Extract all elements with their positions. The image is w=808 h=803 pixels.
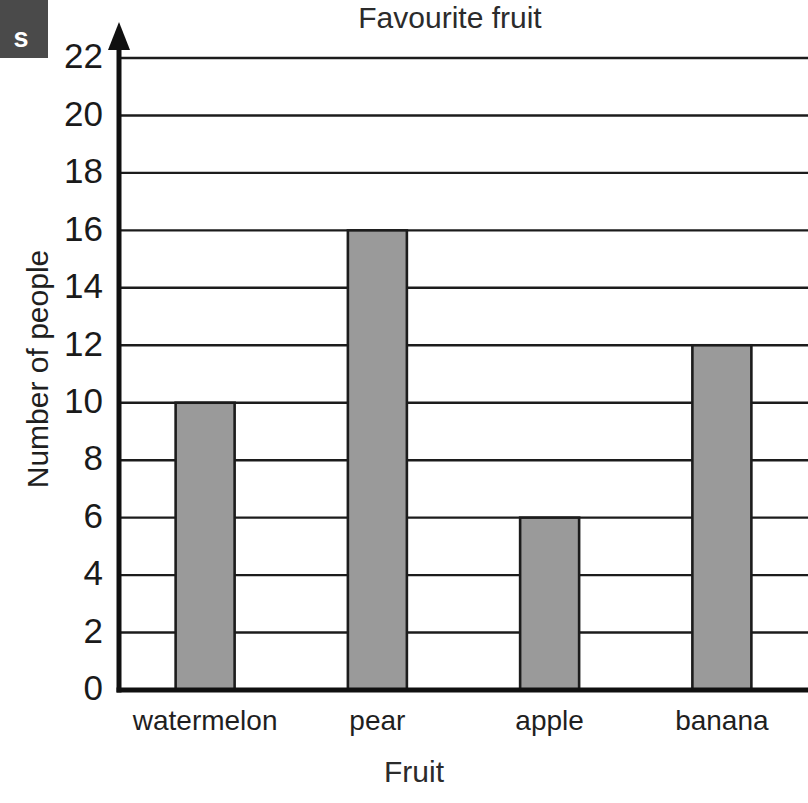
- bar-pear: [348, 230, 407, 690]
- y-tick-label: 6: [84, 496, 103, 535]
- y-tick-label: 10: [64, 381, 103, 420]
- bar-watermelon: [176, 403, 235, 690]
- y-axis-arrow-icon: [108, 22, 130, 50]
- y-tick-label: 2: [84, 611, 103, 650]
- y-tick-label: 22: [64, 36, 103, 75]
- y-tick-label: 20: [64, 94, 103, 133]
- y-tick-label: 18: [64, 151, 103, 190]
- y-tick-label: 14: [64, 266, 103, 305]
- x-category-label-banana: banana: [675, 705, 769, 736]
- bar-chart-plot-area: 0246810121416182022 watermelonpearappleb…: [0, 0, 808, 803]
- x-category-labels-group: watermelonpearapplebanana: [132, 705, 769, 736]
- y-tick-label: 4: [84, 553, 103, 592]
- y-tick-label: 12: [64, 324, 103, 363]
- x-category-label-pear: pear: [349, 705, 405, 736]
- x-category-label-apple: apple: [515, 705, 584, 736]
- x-category-label-watermelon: watermelon: [132, 705, 278, 736]
- y-tick-label: 8: [84, 438, 103, 477]
- y-tick-labels-group: 0246810121416182022: [64, 36, 103, 707]
- bar-banana: [692, 345, 751, 690]
- y-tick-label: 0: [84, 668, 103, 707]
- bar-apple: [520, 518, 579, 690]
- y-tick-label: 16: [64, 209, 103, 248]
